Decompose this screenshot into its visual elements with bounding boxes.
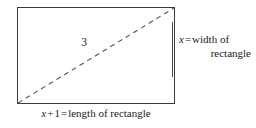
length-annotation: x+1=length of rectangle (17, 107, 175, 120)
width-annotation: x=width of rectangle (179, 32, 251, 60)
width-equals-operator: = (184, 33, 192, 45)
rectangle-shape (17, 7, 175, 104)
width-annotation-line1: x=width of (179, 32, 251, 46)
width-annotation-line2: rectangle (179, 46, 251, 60)
width-annotation-text1: width of (192, 33, 229, 45)
diagonal-length-label: 3 (74, 36, 94, 49)
geometry-figure: 3 x=width of rectangle x+1=length of rec… (0, 0, 256, 128)
length-annotation-text: length of rectangle (68, 107, 150, 119)
length-equals-operator: = (60, 107, 68, 119)
vertical-separator-rule (172, 22, 173, 77)
